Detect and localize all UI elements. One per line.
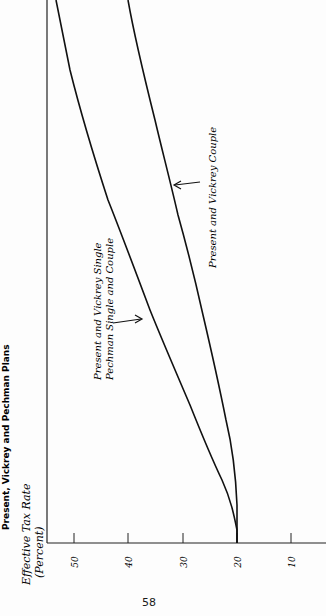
tick-label-30: 30 — [179, 556, 189, 568]
y-axis-label-line1: Effective Tax Rate — [20, 483, 33, 586]
chart: 50 40 30 20 10 Present, Vickrey and Pech… — [0, 0, 326, 616]
y-axis-label-line2: (Percent) — [33, 527, 46, 578]
annotation-series1-line1: Present and Vickrey Single — [92, 242, 103, 381]
tick-label-40: 40 — [124, 556, 134, 569]
annotation-series2: Present and Vickrey Couple — [207, 127, 218, 269]
annotation-series1-line2: Pechman Single and Couple — [104, 238, 115, 381]
tick-label-10: 10 — [287, 556, 297, 568]
chart-title: Present, Vickrey and Pechman Plans — [1, 344, 11, 530]
y-axis-ticks — [74, 533, 291, 543]
page-number: 58 — [142, 596, 156, 609]
tick-label-50: 50 — [70, 556, 80, 568]
arrow-icon — [174, 181, 200, 189]
series-line-single-pechman — [56, 0, 237, 543]
arrow-icon — [113, 315, 142, 323]
series-line-couple — [128, 0, 237, 543]
tick-label-20: 20 — [233, 556, 243, 569]
